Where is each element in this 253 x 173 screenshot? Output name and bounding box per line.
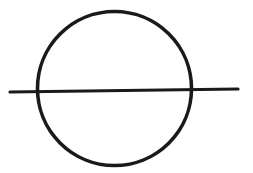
circle-with-line-figure (0, 0, 253, 173)
horizontal-line (10, 89, 238, 92)
diagram-canvas (0, 0, 253, 173)
